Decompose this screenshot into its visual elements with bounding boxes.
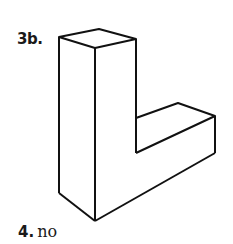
problem-4: 4.no	[18, 222, 57, 241]
column-top-face	[59, 29, 136, 48]
problem-4-answer: no	[37, 222, 57, 241]
problem-4-number: 4.	[18, 223, 34, 241]
arm-top-face	[136, 103, 215, 153]
isometric-l-shape-drawing	[0, 0, 233, 244]
